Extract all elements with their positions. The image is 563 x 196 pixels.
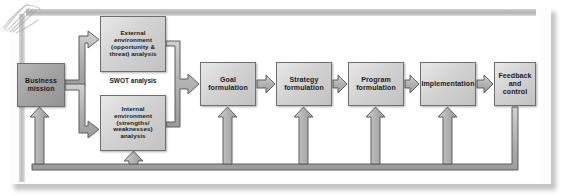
node-implementation[interactable]: Implementation xyxy=(420,62,476,106)
node-line: Implementation xyxy=(419,80,476,88)
node-line: Feedback xyxy=(496,72,533,80)
scribble-decoration xyxy=(0,0,60,38)
node-line: threat) analysis xyxy=(108,51,159,58)
node-line: Strategy xyxy=(282,76,326,84)
node-line: control xyxy=(496,88,533,96)
node-program-formulation[interactable]: Program formulation xyxy=(348,62,404,106)
swot-analysis-label: SWOT analysis xyxy=(100,77,166,84)
node-line: formulation xyxy=(354,84,398,92)
node-goal-formulation[interactable]: Goal formulation xyxy=(200,62,256,106)
node-line: Program xyxy=(354,76,398,84)
diagram-canvas: Business mission External environment (o… xyxy=(0,0,563,196)
node-line: Business xyxy=(23,77,59,85)
frame-top-bar xyxy=(26,9,536,16)
node-internal-environment[interactable]: Internal environment (strengths/ weaknes… xyxy=(100,95,166,151)
node-strategy-formulation[interactable]: Strategy formulation xyxy=(276,62,332,106)
node-line: formulation xyxy=(206,84,250,92)
node-external-environment[interactable]: External environment (opportunity & thre… xyxy=(100,16,166,72)
node-line: and xyxy=(496,80,533,88)
node-line: formulation xyxy=(282,84,326,92)
node-feedback-and-control[interactable]: Feedback and control xyxy=(494,62,536,106)
node-line: mission xyxy=(23,85,59,93)
node-line: weaknesses) analysis xyxy=(101,126,165,140)
node-line: Goal xyxy=(206,76,250,84)
node-business-mission[interactable]: Business mission xyxy=(17,63,65,107)
